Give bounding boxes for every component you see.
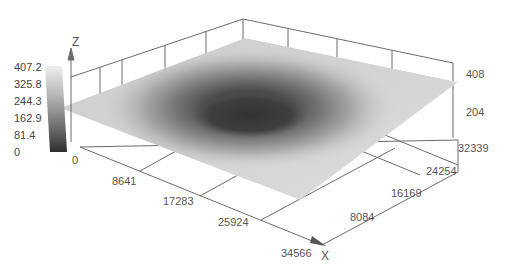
y-tick: 24254 bbox=[426, 166, 457, 177]
z-tick: 408 bbox=[466, 69, 484, 80]
z-tick: 204 bbox=[466, 107, 484, 118]
surface-plot-3d bbox=[0, 0, 529, 277]
x-tick: 17283 bbox=[163, 196, 194, 207]
y-tick: 8084 bbox=[350, 212, 374, 223]
colorbar-tick: 162.9 bbox=[14, 113, 42, 124]
colorbar-tick: 244.3 bbox=[14, 96, 42, 107]
colorbar-tick: 81.4 bbox=[14, 130, 35, 141]
x-axis-arrow bbox=[310, 236, 326, 246]
colorbar bbox=[45, 66, 67, 152]
z-axis-label: Z bbox=[72, 36, 79, 48]
y-tick: 32339 bbox=[458, 143, 489, 154]
x-tick: 25924 bbox=[218, 217, 249, 228]
colorbar-tick: 407.2 bbox=[14, 62, 42, 73]
z-axis bbox=[68, 48, 74, 142]
colorbar-tick: 325.8 bbox=[14, 79, 42, 90]
x-axis-label: X bbox=[321, 250, 329, 262]
x-tick: 0 bbox=[72, 155, 78, 166]
x-tick: 8641 bbox=[112, 176, 136, 187]
x-tick: 34566 bbox=[281, 248, 312, 259]
y-tick: 16169 bbox=[391, 188, 422, 199]
colorbar-tick: 0 bbox=[14, 147, 20, 158]
